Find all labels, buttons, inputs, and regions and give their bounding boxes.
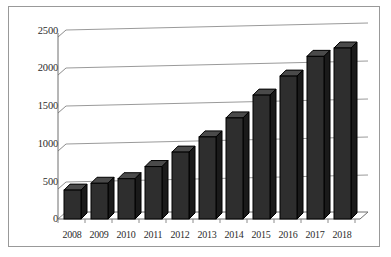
y-axis-tick-label: 0: [12, 213, 58, 224]
x-axis-tick-label: 2014: [219, 229, 249, 240]
x-axis-tick-label: 2018: [327, 229, 357, 240]
y-axis-tick-label: 1500: [12, 100, 58, 111]
chart-frame: [8, 6, 380, 247]
y-axis-tick-label: 1000: [12, 138, 58, 149]
x-axis-tick-label: 2009: [84, 229, 114, 240]
y-axis-tick-labels: 2500 2000 1500 1000 500 0: [12, 0, 58, 257]
x-axis-tick-label: 2011: [138, 229, 168, 240]
y-axis-tick-label: 2000: [12, 62, 58, 73]
y-axis-tick-label: 2500: [12, 25, 58, 36]
x-axis-tick-label: 2012: [165, 229, 195, 240]
x-axis-tick-label: 2016: [273, 229, 303, 240]
x-axis-tick-label: 2017: [300, 229, 330, 240]
x-axis-tick-label: 2010: [111, 229, 141, 240]
x-axis-tick-label: 2008: [57, 229, 87, 240]
y-axis-tick-label: 500: [12, 176, 58, 187]
x-axis-tick-label: 2013: [192, 229, 222, 240]
x-axis-tick-label: 2015: [246, 229, 276, 240]
